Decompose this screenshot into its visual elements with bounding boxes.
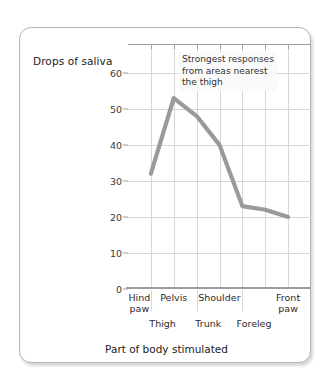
y-tick-label-40: 40	[110, 139, 122, 150]
x-axis-title: Part of body stimulated	[0, 343, 333, 355]
x-label-hind-paw-line2: paw	[113, 303, 165, 314]
annotation-line-1: Strongest responses	[182, 54, 274, 66]
plot-area: 60 50 40 30 20 10 0 Strongest responses …	[128, 44, 311, 289]
x-label-front-paw-line2: paw	[262, 303, 314, 314]
x-label-thigh: Thigh	[140, 318, 186, 329]
y-tick-label-60: 60	[110, 67, 122, 78]
annotation-line-3: the thigh	[182, 77, 274, 89]
x-label-trunk: Trunk	[185, 318, 231, 329]
x-label-foreleg: Foreleg	[228, 318, 280, 329]
y-axis-title: Drops of saliva	[33, 55, 112, 67]
annotation-line-2: from areas nearest	[182, 66, 274, 78]
chart-annotation: Strongest responses from areas nearest t…	[179, 52, 277, 91]
y-tick-label-50: 50	[110, 103, 122, 114]
y-tick-label-10: 10	[110, 247, 122, 258]
x-label-shoulder: Shoulder	[190, 292, 248, 303]
y-tick-label-30: 30	[110, 175, 122, 186]
x-label-front-paw: Front paw	[262, 292, 314, 314]
y-tick-label-20: 20	[110, 211, 122, 222]
x-label-shoulder-line1: Shoulder	[190, 292, 248, 303]
x-label-front-paw-line1: Front	[262, 292, 314, 303]
